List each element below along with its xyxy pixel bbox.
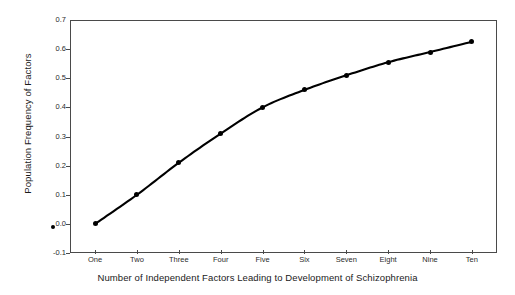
x-tick-mark: [430, 250, 431, 254]
y-tick-mark: [66, 137, 70, 138]
y-tick-label: 0.5: [32, 74, 66, 82]
y-tick-mark: [66, 195, 70, 196]
data-point-marker: [428, 50, 433, 55]
x-tick-mark: [388, 250, 389, 254]
x-axis-title: Number of Independent Factors Leading to…: [0, 272, 515, 283]
x-tick-mark: [304, 250, 305, 254]
y-tick-label: 0.4: [32, 103, 66, 111]
y-tick-mark: [66, 253, 70, 254]
data-point-marker: [344, 73, 349, 78]
y-tick-label: 0.1: [32, 191, 66, 199]
y-tick-mark: [66, 107, 70, 108]
data-point-marker: [386, 60, 391, 65]
y-tick-mark: [66, 224, 70, 225]
x-tick-mark: [263, 250, 264, 254]
x-tick-mark: [346, 250, 347, 254]
x-tick-mark: [137, 250, 138, 254]
x-tick-mark: [179, 250, 180, 254]
y-tick-label: -0.1: [32, 249, 66, 257]
x-tick-mark: [95, 250, 96, 254]
y-axis-title: Population Frequency of Factors: [22, 9, 33, 239]
x-tick-mark: [472, 250, 473, 254]
x-tick-label: Ten: [442, 255, 502, 264]
plot-area-frame: [70, 20, 497, 253]
y-tick-mark: [66, 49, 70, 50]
data-point-marker: [260, 105, 265, 110]
y-tick-label: 0.0: [32, 220, 66, 228]
y-tick-label: 0.7: [32, 16, 66, 24]
y-tick-label: 0.6: [32, 45, 66, 53]
y-tick-label: 0.3: [32, 133, 66, 141]
chart-figure: -0.10.00.10.20.30.40.50.60.7 Population …: [0, 0, 515, 295]
y-tick-mark: [66, 78, 70, 79]
y-tick-mark: [66, 166, 70, 167]
y-tick-label: 0.2: [32, 162, 66, 170]
x-tick-mark: [221, 250, 222, 254]
